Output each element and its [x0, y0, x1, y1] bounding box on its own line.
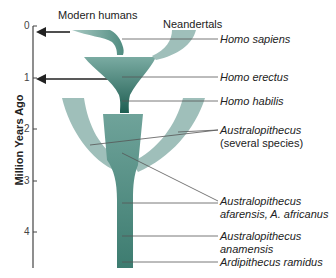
australopithecus-right-branch	[132, 98, 205, 172]
tick-0: 0	[24, 21, 30, 31]
tick-3: 3	[24, 176, 30, 186]
australopithecus-trunk	[103, 114, 143, 268]
label-homo-erectus: Homo erectus	[220, 71, 288, 83]
label-line2: anamensis	[220, 243, 273, 255]
arrow-modern-humans	[36, 27, 70, 37]
label-neandertals: Neandertals	[163, 18, 222, 30]
label-modern-humans: Modern humans	[58, 9, 138, 21]
hominid-evolution-diagram: Million Years Ago 0 1 2 3 4 Modern human…	[0, 0, 336, 278]
neandertal-branch	[152, 30, 196, 60]
label-line1: Australopithecus	[220, 124, 301, 136]
tick-1: 1	[24, 73, 30, 83]
label-line2: afarensis, A. africanus	[220, 208, 328, 220]
label-homo-habilis: Homo habilis	[220, 95, 284, 107]
tick-4: 4	[24, 227, 30, 237]
homo-erectus-funnel	[84, 57, 156, 113]
label-line1: Australopithecus	[220, 230, 301, 242]
label-homo-sapiens: Homo sapiens	[220, 33, 290, 45]
label-line1: Australopithecus	[220, 195, 301, 207]
tick-2: 2	[24, 124, 30, 134]
label-ardipithecus-ramidus: Ardipithecus ramidus	[220, 256, 323, 268]
y-axis	[33, 26, 37, 268]
modern-humans-branch	[72, 30, 124, 55]
label-line2: (several species)	[220, 137, 303, 149]
